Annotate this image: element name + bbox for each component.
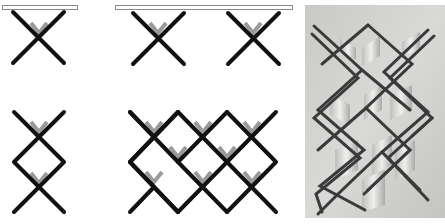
figure: Lattice shelving modules [0,0,445,224]
panel-photo [0,0,445,224]
